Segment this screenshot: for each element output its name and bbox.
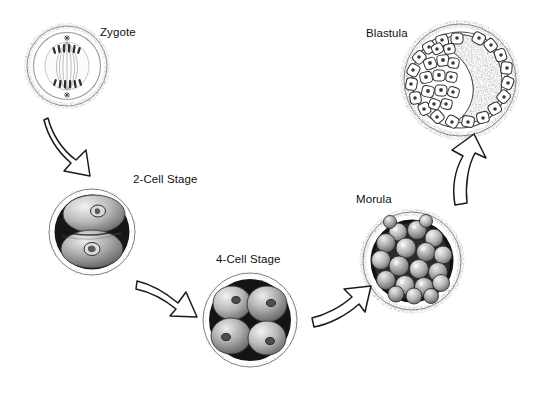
label-four-cell: 4-Cell Stage (216, 253, 280, 265)
arrow-zygote-to-two-cell (44, 118, 90, 176)
stage-illustration-four-cell (203, 273, 297, 367)
diagram-canvas (0, 0, 534, 395)
arrow-morula-to-blastula (452, 134, 486, 205)
label-zygote: Zygote (100, 26, 136, 38)
stage-illustration-two-cell (49, 189, 135, 275)
label-blastula: Blastula (366, 27, 408, 39)
arrow-four-cell-to-morula (312, 286, 371, 327)
stage-illustration-blastula (404, 24, 516, 136)
label-two-cell: 2-Cell Stage (133, 173, 197, 185)
stage-illustration-zygote (27, 26, 107, 106)
stage-illustration-morula (363, 212, 461, 310)
embryonic-development-diagram: Zygote 2-Cell Stage 4-Cell Stage Morula … (0, 0, 534, 395)
label-morula: Morula (356, 193, 392, 205)
arrow-two-cell-to-four-cell (136, 281, 197, 317)
